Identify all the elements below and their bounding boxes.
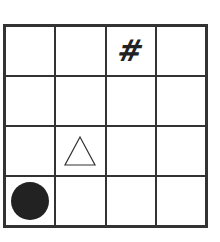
cell-r0-c1[interactable] xyxy=(55,26,105,76)
circle-piece-icon[interactable] xyxy=(11,182,49,220)
cell-r3-c3[interactable] xyxy=(156,176,206,226)
triangle-piece-icon[interactable] xyxy=(63,134,97,168)
cell-r0-c0[interactable] xyxy=(5,26,55,76)
cell-r0-c2[interactable]: # xyxy=(106,26,156,76)
cell-r1-c3[interactable] xyxy=(156,76,206,126)
cell-r1-c1[interactable] xyxy=(55,76,105,126)
cell-r0-c3[interactable] xyxy=(156,26,206,76)
cell-r1-c2[interactable] xyxy=(106,76,156,126)
cell-r3-c0[interactable] xyxy=(5,176,55,226)
cell-r1-c0[interactable] xyxy=(5,76,55,126)
cell-r2-c3[interactable] xyxy=(156,126,206,176)
cell-r2-c0[interactable] xyxy=(5,126,55,176)
cell-r2-c2[interactable] xyxy=(106,126,156,176)
cell-r2-c1[interactable] xyxy=(55,126,105,176)
game-board: # xyxy=(3,24,208,228)
cell-r3-c1[interactable] xyxy=(55,176,105,226)
cell-r3-c2[interactable] xyxy=(106,176,156,226)
hash-piece-icon[interactable]: # xyxy=(115,36,147,66)
